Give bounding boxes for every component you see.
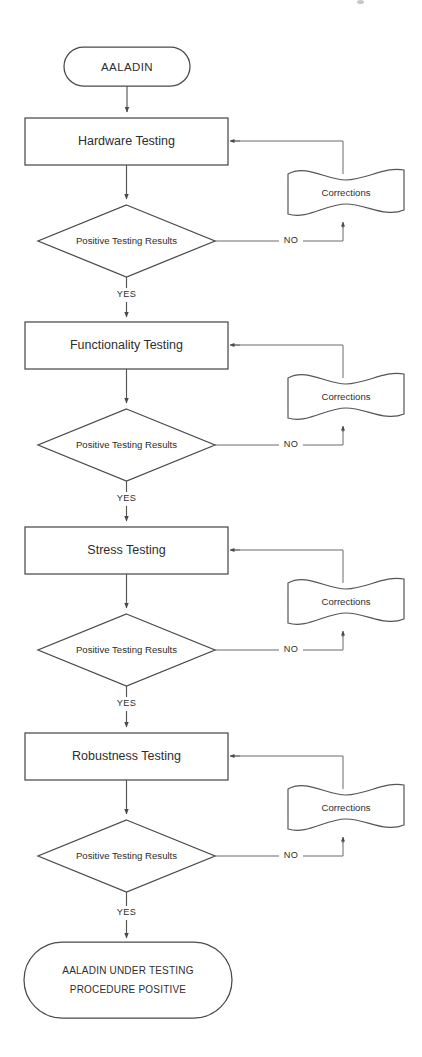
stage-1-no-branch: NO bbox=[215, 222, 343, 248]
stage-4-decision-diamond: Positive Testing Results bbox=[38, 820, 215, 892]
stage-4-yes-branch: YES bbox=[111, 892, 142, 938]
stage-3-yes-label: YES bbox=[117, 698, 136, 708]
stage-1-decision-label: Positive Testing Results bbox=[76, 235, 177, 246]
stage-1-decision-diamond: Positive Testing Results bbox=[38, 205, 215, 277]
stage-3-no-label: NO bbox=[284, 644, 298, 654]
stage-1-corrections-document: Corrections bbox=[288, 169, 404, 215]
flowchart-canvas: AALADIN Hardware Testing Positive Testin… bbox=[0, 0, 422, 1057]
end-terminator-label-line1: AALADIN UNDER TESTING bbox=[62, 965, 193, 976]
stage-1-process-box: Hardware Testing bbox=[25, 118, 228, 165]
stage-2-process-box: Functionality Testing bbox=[25, 322, 228, 369]
stage-1-corrections-label: Corrections bbox=[321, 187, 370, 198]
stage-3-process-label: Stress Testing bbox=[87, 543, 165, 557]
stage-2-corrections-label: Corrections bbox=[321, 391, 370, 402]
stage-2-corrections-document: Corrections bbox=[288, 373, 404, 419]
stage-4-corrections-document: Corrections bbox=[288, 784, 404, 830]
stage-2-no-branch: NO bbox=[215, 426, 343, 452]
stage-4-process-label: Robustness Testing bbox=[72, 749, 181, 763]
stage-4-no-label: NO bbox=[284, 850, 298, 860]
stage-4-process-box: Robustness Testing bbox=[25, 733, 228, 780]
end-terminator: AALADIN UNDER TESTING PROCEDURE POSITIVE bbox=[24, 942, 232, 1018]
stage-1-feedback-connector bbox=[230, 141, 343, 174]
stage-3-corrections-document: Corrections bbox=[288, 578, 404, 624]
stage-4-decision-label: Positive Testing Results bbox=[76, 850, 177, 861]
stage-2-feedback-connector bbox=[230, 345, 343, 378]
stage-4-feedback-connector bbox=[230, 756, 343, 789]
stage-4-yes-label: YES bbox=[117, 907, 136, 917]
stage-1-no-label: NO bbox=[284, 235, 298, 245]
stage-1-process-label: Hardware Testing bbox=[78, 134, 175, 148]
flowchart-page: AALADIN Hardware Testing Positive Testin… bbox=[0, 0, 422, 1057]
stage-2-decision-diamond: Positive Testing Results bbox=[38, 409, 215, 481]
stage-4-corrections-label: Corrections bbox=[321, 802, 370, 813]
stage-3-decision-diamond: Positive Testing Results bbox=[38, 614, 215, 686]
stage-1-yes-branch: YES bbox=[111, 277, 142, 317]
stage-3-no-branch: NO bbox=[215, 631, 343, 657]
stage-3-corrections-label: Corrections bbox=[321, 596, 370, 607]
stage-3-decision-label: Positive Testing Results bbox=[76, 644, 177, 655]
start-terminator-label: AALADIN bbox=[101, 61, 153, 73]
stage-2-process-label: Functionality Testing bbox=[70, 338, 183, 352]
start-terminator: AALADIN bbox=[64, 47, 190, 86]
stage-3-process-box: Stress Testing bbox=[25, 527, 228, 574]
stage-2-no-label: NO bbox=[284, 439, 298, 449]
stage-1-yes-label: YES bbox=[117, 289, 136, 299]
stage-2-yes-branch: YES bbox=[111, 481, 142, 521]
stage-4-no-branch: NO bbox=[215, 837, 343, 863]
stage-3-yes-branch: YES bbox=[111, 686, 142, 727]
end-terminator-label-line2: PROCEDURE POSITIVE bbox=[70, 984, 187, 995]
stage-2-yes-label: YES bbox=[117, 493, 136, 503]
stage-2-decision-label: Positive Testing Results bbox=[76, 439, 177, 450]
stage-3-feedback-connector bbox=[230, 550, 343, 583]
